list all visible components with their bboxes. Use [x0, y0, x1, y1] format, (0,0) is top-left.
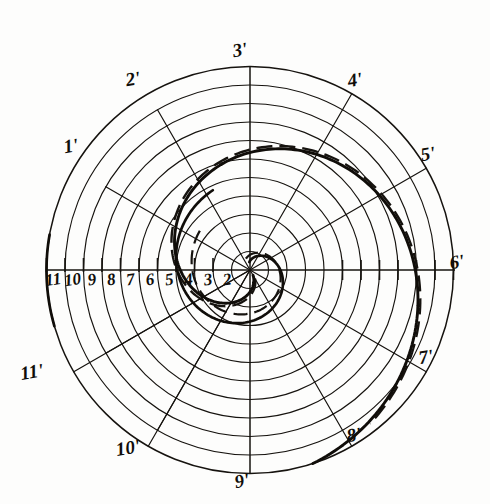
radial-label-1: 1' [62, 134, 80, 157]
radial-line-2 [250, 94, 352, 270]
radial-label-4: 4' [345, 68, 364, 91]
radial-label-9: 9' [233, 469, 251, 492]
radial-label-2: 2' [123, 67, 142, 90]
radial-label-5: 5' [419, 142, 437, 165]
radial-label-10: 10' [114, 435, 142, 460]
spiral-construction-figure: 1'2'3'4'5'6'7'8'9'10'11' 111098765432 [0, 0, 490, 504]
axis-number-label-11: 11 [44, 269, 63, 290]
axis-number-label-9: 9 [86, 269, 98, 289]
axis-number-label-6: 6 [144, 269, 156, 289]
spiral-diagram-canvas: 1'2'3'4'5'6'7'8'9'10'11' 111098765432 [0, 0, 490, 504]
radial-label-7: 7' [417, 345, 435, 368]
axis-number-label-10: 10 [63, 269, 83, 290]
radial-label-8: 8' [345, 423, 363, 446]
axis-number-label-3: 3 [201, 269, 214, 289]
archimedean-spiral-curve [175, 149, 418, 464]
radial-line-10 [250, 270, 352, 446]
radial-label-6: 6' [448, 250, 466, 273]
radial-line-4 [158, 110, 251, 270]
axis-number-label-8: 8 [106, 269, 118, 289]
radial-label-3: 3' [230, 38, 249, 61]
radial-label-11: 11' [19, 359, 46, 384]
radial-line-11 [250, 270, 426, 372]
axis-number-label-7: 7 [125, 269, 138, 289]
axis-number-label-5: 5 [164, 269, 176, 289]
